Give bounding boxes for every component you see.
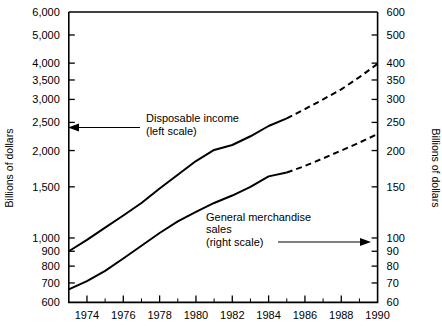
x-tick-label: 1978 — [147, 309, 171, 321]
x-tick-label: 1986 — [293, 309, 317, 321]
left-tick-label: 5,000 — [32, 29, 60, 41]
right-axis-tick-labels: 60708090100150200250300350400500600 — [387, 6, 405, 308]
left-tick-label: 600 — [41, 296, 59, 308]
left-tick-label: 3,000 — [32, 93, 60, 105]
series-disposable-income-projection — [287, 64, 378, 119]
right-tick-label: 300 — [387, 93, 405, 105]
left-tick-label: 900 — [41, 245, 59, 257]
left-tick-label: 2,000 — [32, 145, 60, 157]
annotation-general-merchandise-sales: General merchandise sales (right scale) — [206, 211, 371, 248]
x-tick-label: 1982 — [220, 309, 244, 321]
x-tick-label: 1984 — [256, 309, 280, 321]
annotation-general-merchandise-line1: General merchandise — [206, 211, 311, 223]
right-tick-label: 80 — [387, 260, 399, 272]
annotation-disposable-income: Disposable income (left scale) — [68, 112, 239, 137]
left-axis-title: Billions of dollars — [3, 129, 15, 208]
left-tick-label: 1,000 — [32, 232, 60, 244]
right-tick-label: 60 — [387, 296, 399, 308]
right-axis-title: Billions of dollars — [430, 129, 442, 208]
dual-axis-log-line-chart: 6007008009001,0001,5002,0002,5003,0003,5… — [0, 0, 442, 331]
annotation-general-merchandise-line3: (right scale) — [206, 236, 263, 248]
chart-figure: 6007008009001,0001,5002,0002,5003,0003,5… — [0, 0, 442, 331]
series-group — [69, 64, 378, 290]
frame-path — [69, 12, 378, 302]
x-tick-label: 1990 — [365, 309, 389, 321]
right-tick-label: 600 — [387, 6, 405, 18]
left-tick-label: 4,000 — [32, 57, 60, 69]
x-tick-label: 1974 — [75, 309, 99, 321]
right-tick-label: 100 — [387, 232, 405, 244]
x-tick-label: 1976 — [111, 309, 135, 321]
left-tick-label: 2,500 — [32, 116, 60, 128]
right-tick-label: 250 — [387, 116, 405, 128]
left-tick-label: 700 — [41, 277, 59, 289]
right-tick-label: 150 — [387, 181, 405, 193]
right-tick-label: 400 — [387, 57, 405, 69]
annotation-general-merchandise-line2: sales — [206, 223, 232, 235]
left-tick-label: 3,500 — [32, 74, 60, 86]
annotation-disposable-income-line1: Disposable income — [146, 112, 239, 124]
right-tick-label: 350 — [387, 74, 405, 86]
right-tick-label: 90 — [387, 245, 399, 257]
arrow-right-icon — [360, 238, 371, 246]
x-tick-label: 1980 — [184, 309, 208, 321]
x-tick-label: 1988 — [329, 309, 353, 321]
right-tick-label: 500 — [387, 29, 405, 41]
left-tick-label: 6,000 — [32, 6, 60, 18]
annotation-disposable-income-line2: (left scale) — [146, 125, 197, 137]
left-tick-label: 1,500 — [32, 181, 60, 193]
right-tick-label: 200 — [387, 145, 405, 157]
x-axis-tick-labels: 197419761978198019821984198619881990 — [75, 309, 390, 321]
right-tick-label: 70 — [387, 277, 399, 289]
right-axis-ticks — [372, 35, 378, 283]
arrow-left-icon — [68, 124, 79, 132]
left-axis-tick-labels: 6007008009001,0001,5002,0002,5003,0003,5… — [32, 6, 60, 308]
series-general-merchandise-sales-projection — [287, 134, 378, 173]
left-axis-ticks — [69, 35, 75, 283]
plot-frame — [69, 12, 378, 302]
left-tick-label: 800 — [41, 260, 59, 272]
